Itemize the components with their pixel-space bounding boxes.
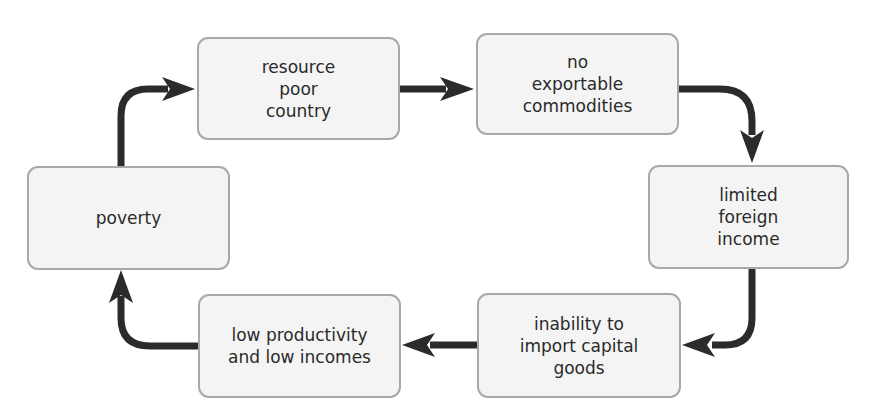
node-line: income [717, 228, 779, 250]
arrow-poverty-to-resource [121, 89, 168, 166]
arrow-foreign-to-import [712, 269, 752, 345]
arrow-exportable-to-foreign [679, 89, 752, 135]
node-line: and low incomes [228, 346, 371, 368]
node-no-exportable-commodities: no exportable commodities [476, 33, 679, 135]
node-line: low productivity [228, 324, 371, 346]
node-inability-to-import-capital-goods: inability to import capital goods [477, 293, 681, 398]
node-limited-foreign-income: limited foreign income [648, 165, 849, 269]
node-low-productivity-and-low-incomes: low productivity and low incomes [198, 294, 401, 398]
node-poverty: poverty [27, 166, 230, 270]
node-line: limited [717, 184, 779, 206]
node-line: poor [262, 78, 336, 100]
node-line: no [523, 51, 633, 73]
node-line: resource [262, 56, 336, 78]
node-line: commodities [523, 95, 633, 117]
arrow-productivity-to-poverty [121, 296, 198, 346]
node-line: inability to [520, 313, 639, 335]
node-resource-poor-country: resource poor country [197, 37, 400, 140]
node-line: country [262, 100, 336, 122]
node-line: foreign [717, 206, 779, 228]
node-line: import capital [520, 335, 639, 357]
node-line: exportable [523, 73, 633, 95]
arrowhead-icon [682, 333, 715, 357]
node-line: poverty [96, 207, 161, 229]
node-line: goods [520, 357, 639, 379]
